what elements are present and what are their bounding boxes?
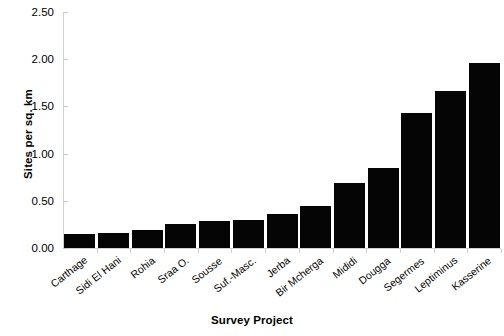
- x-tick-mark: [97, 249, 98, 253]
- x-tick-mark: [333, 249, 334, 253]
- y-tick-mark: [63, 106, 68, 107]
- y-tick-mark: [63, 201, 68, 202]
- x-tick-mark: [231, 249, 232, 253]
- y-tick-mark: [63, 154, 68, 155]
- x-axis-title: Survey Project: [0, 314, 504, 326]
- x-tick-mark: [198, 249, 199, 253]
- x-tick-label: Jerba: [264, 254, 292, 280]
- x-axis-tick-labels: CarthageSidi El HaniRohiaSraa O.SousseSu…: [0, 0, 504, 336]
- y-tick-mark: [63, 59, 68, 60]
- x-tick-label: Sraa O.: [155, 254, 191, 286]
- x-tick-label: Mididi: [330, 254, 359, 280]
- x-tick-mark: [299, 249, 300, 253]
- y-tick-mark: [63, 12, 68, 13]
- x-tick-mark: [130, 249, 131, 253]
- bar-chart: Sites per sq. km 0.000.501.001.502.002.5…: [0, 0, 504, 336]
- x-tick-mark: [366, 249, 367, 253]
- x-tick-label: Rohia: [128, 254, 157, 280]
- x-tick-mark: [265, 249, 266, 253]
- x-tick-mark: [164, 249, 165, 253]
- x-tick-mark: [434, 249, 435, 253]
- x-tick-mark: [400, 249, 401, 253]
- y-tick-mark: [63, 248, 68, 249]
- x-tick-mark: [501, 249, 502, 253]
- x-tick-mark: [467, 249, 468, 253]
